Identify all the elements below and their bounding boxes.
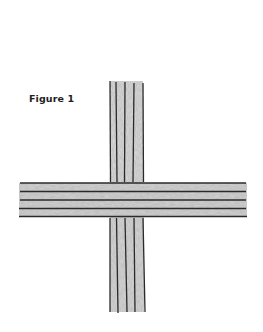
crossing-lines-diagram [0,0,263,332]
